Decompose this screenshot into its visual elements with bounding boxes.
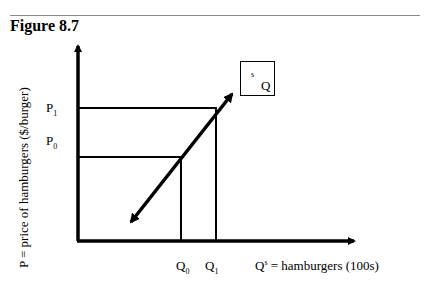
tick-label-q0: Q0 [176, 258, 189, 276]
tick-label-p1: P1 [46, 100, 57, 118]
curve-label-sup: s [251, 70, 254, 79]
curve-label-base: Q [261, 78, 270, 94]
supply-diagram [0, 0, 431, 296]
y-axis-label: P = price of hamburgers ($/burger) [16, 87, 32, 268]
tick-label-q1: Q1 [205, 258, 218, 276]
tick-label-p0: P0 [46, 133, 57, 151]
supply-curve-label-box: Qs [240, 61, 275, 96]
x-axis-label: Qs = hamburgers (100s) [255, 258, 379, 274]
